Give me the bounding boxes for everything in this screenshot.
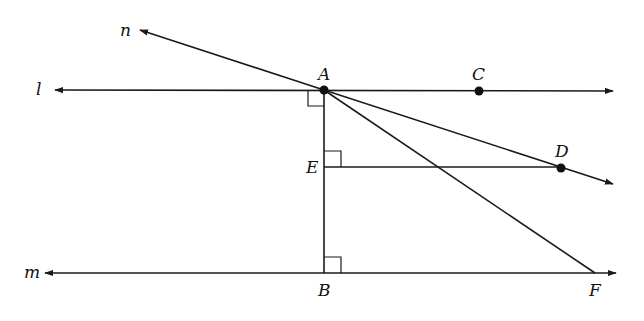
geometry-diagram: n l m A C D E B F <box>0 0 644 321</box>
label-n: n <box>120 20 131 40</box>
label-l: l <box>36 79 41 99</box>
ray-ad <box>324 90 613 184</box>
label-a: A <box>316 64 330 84</box>
point-c <box>475 87 484 96</box>
line-l <box>55 90 613 91</box>
label-d: D <box>554 141 569 161</box>
segment-af <box>324 90 595 273</box>
right-angle-e <box>324 151 341 167</box>
label-b: B <box>317 280 331 300</box>
ray-n <box>140 30 324 90</box>
label-f: F <box>588 280 602 300</box>
point-d <box>557 164 566 173</box>
right-angle-b <box>324 257 341 273</box>
label-e: E <box>305 157 319 177</box>
point-a <box>320 86 329 95</box>
label-m: m <box>24 262 40 282</box>
label-c: C <box>472 64 485 84</box>
